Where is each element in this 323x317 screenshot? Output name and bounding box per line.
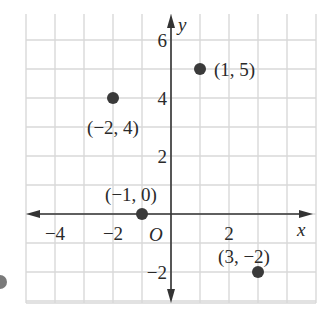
decorative-dot	[0, 275, 7, 289]
data-point	[194, 63, 206, 75]
x-tick-label: −4	[45, 223, 66, 244]
x-tick-label: 2	[224, 223, 234, 244]
coordinate-plane: y x O −4−22642−2 (−2, 4)(1, 5)(−1, 0)(3,…	[0, 0, 323, 317]
x-axis-left-arrow-icon	[26, 210, 40, 218]
y-tick-label: 6	[158, 30, 168, 51]
x-axis-label: x	[296, 219, 306, 240]
y-axis-label: y	[176, 14, 187, 35]
y-tick-label: 2	[158, 146, 168, 167]
point-label: (−2, 4)	[87, 117, 139, 139]
data-points: (−2, 4)(1, 5)(−1, 0)(3, −2)	[87, 59, 270, 278]
y-tick-label: −2	[147, 262, 167, 283]
origin-label: O	[149, 224, 163, 245]
point-label: (1, 5)	[214, 59, 255, 81]
data-point	[136, 208, 148, 220]
data-point	[252, 266, 264, 278]
axes	[26, 14, 313, 303]
x-axis-right-arrow-icon	[299, 210, 313, 218]
y-tick-label: 4	[158, 88, 168, 109]
x-tick-label: −2	[103, 223, 123, 244]
point-label: (3, −2)	[218, 246, 270, 268]
point-label: (−1, 0)	[105, 184, 157, 206]
y-axis-up-arrow-icon	[167, 14, 175, 28]
data-point	[107, 92, 119, 104]
